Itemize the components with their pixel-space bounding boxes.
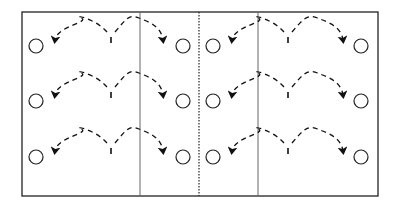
drill-diagram bbox=[0, 0, 396, 207]
dashed-arrow-icon bbox=[115, 17, 163, 40]
dashed-arrow-icon bbox=[292, 128, 343, 151]
court bbox=[22, 12, 378, 196]
drill-left-row-3 bbox=[29, 128, 190, 164]
drill-right-row-1 bbox=[206, 17, 368, 53]
dashed-arrow-icon bbox=[115, 128, 163, 151]
player-circle-icon bbox=[206, 150, 220, 164]
drill-right-row-3 bbox=[206, 128, 368, 164]
court-boundary bbox=[22, 12, 378, 196]
player-circle-icon bbox=[354, 94, 368, 108]
dashed-arrow-icon bbox=[115, 72, 163, 95]
court-dividers bbox=[140, 12, 258, 196]
drill-left-row-1 bbox=[29, 17, 190, 53]
player-circle-icon bbox=[354, 39, 368, 53]
dashed-arrow-icon bbox=[292, 72, 343, 95]
dashed-arrow-icon bbox=[55, 17, 107, 40]
player-circle-icon bbox=[354, 150, 368, 164]
drill-right-row-2 bbox=[206, 72, 368, 108]
player-circle-icon bbox=[176, 39, 190, 53]
drill-left-row-2 bbox=[29, 72, 190, 108]
player-circle-icon bbox=[29, 39, 43, 53]
dashed-arrow-icon bbox=[292, 17, 343, 40]
player-circle-icon bbox=[206, 94, 220, 108]
player-circle-icon bbox=[176, 150, 190, 164]
player-circle-icon bbox=[176, 94, 190, 108]
player-circle-icon bbox=[206, 39, 220, 53]
dashed-arrow-icon bbox=[55, 128, 107, 151]
dashed-arrow-icon bbox=[55, 72, 107, 95]
player-circle-icon bbox=[29, 150, 43, 164]
player-circle-icon bbox=[29, 94, 43, 108]
